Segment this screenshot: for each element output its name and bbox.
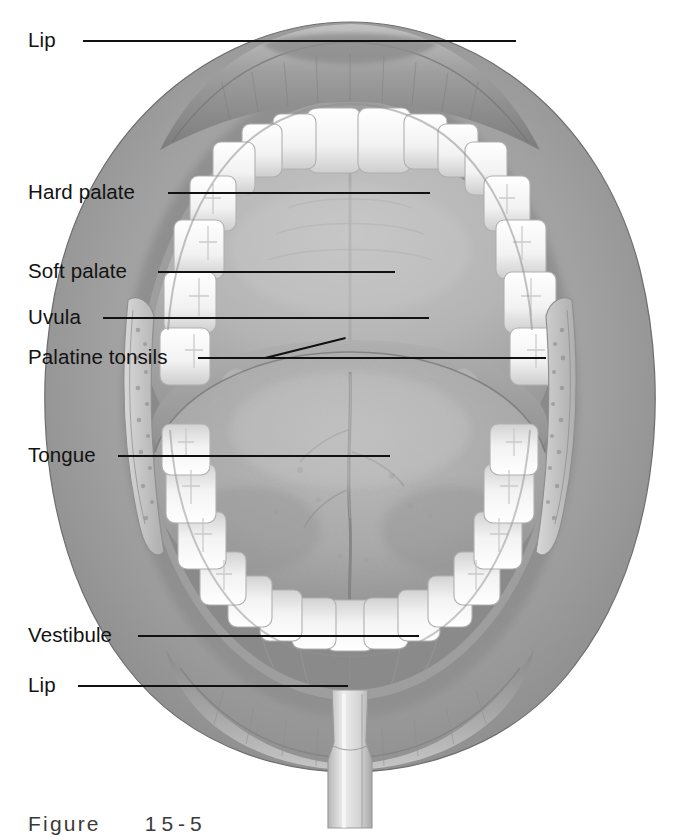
figure-caption-word: Figure (28, 812, 101, 835)
leader-line-soft-palate (158, 271, 395, 273)
label-hard-palate: Hard palate (28, 182, 135, 203)
label-palatine-tonsils: Palatine tonsils (28, 347, 167, 368)
leader-line-palatine-tonsils-branch (265, 337, 346, 359)
label-tongue: Tongue (28, 445, 96, 466)
label-soft-palate: Soft palate (28, 261, 127, 282)
label-uvula: Uvula (28, 307, 81, 328)
label-lip-lower: Lip (28, 675, 56, 696)
figure-caption: Figure15-5 (28, 812, 207, 836)
figure-caption-number: 15-5 (145, 812, 207, 835)
leader-line-uvula (103, 317, 429, 319)
leader-line-palatine-tonsils (198, 357, 546, 359)
label-lip-upper: Lip (28, 30, 56, 51)
leader-line-tongue (118, 455, 390, 457)
leader-line-vestibule (138, 635, 419, 637)
label-vestibule: Vestibule (28, 625, 112, 646)
leader-line-lip-upper (83, 40, 516, 42)
leader-line-lip-lower (78, 685, 348, 687)
leader-line-hard-palate (168, 192, 430, 194)
